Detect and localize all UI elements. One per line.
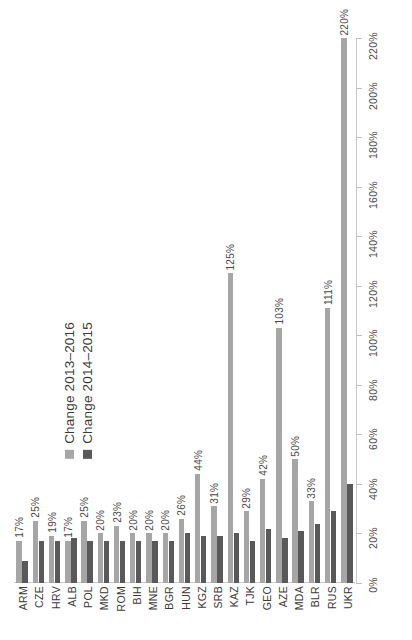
bar-change-2013-2016[interactable]: 26% bbox=[179, 519, 184, 583]
y-tick-mark bbox=[356, 88, 362, 89]
bar-change-2013-2016[interactable]: 23% bbox=[114, 526, 119, 583]
bar-group: 20% bbox=[163, 38, 174, 583]
bar-group: 26% bbox=[179, 38, 190, 583]
x-axis-label-tjk: TJK bbox=[244, 586, 256, 606]
bar-data-label: 111% bbox=[322, 280, 333, 305]
y-tick-label: 20% bbox=[367, 527, 379, 549]
bar-group: 44% bbox=[195, 38, 206, 583]
bar-change-2013-2016[interactable]: 125% bbox=[228, 273, 233, 583]
y-tick-label: 160% bbox=[367, 181, 379, 209]
x-axis-label-hun: HUN bbox=[180, 586, 192, 610]
y-tick-label: 140% bbox=[367, 230, 379, 258]
bar-data-label: 17% bbox=[62, 517, 73, 538]
bar-change-2014-2015[interactable] bbox=[120, 541, 125, 583]
x-axis-label-alb: ALB bbox=[66, 586, 78, 607]
bar-change-2014-2015[interactable] bbox=[169, 541, 174, 583]
bar-change-2013-2016[interactable]: 25% bbox=[33, 521, 38, 583]
bar-group: 25% bbox=[33, 38, 44, 583]
x-axis-label-bih: BIH bbox=[131, 586, 143, 604]
bar-change-2013-2016[interactable]: 19% bbox=[49, 536, 54, 583]
bar-change-2013-2016[interactable]: 111% bbox=[325, 308, 330, 583]
bar-change-2013-2016[interactable]: 31% bbox=[211, 506, 216, 583]
bar-change-2014-2015[interactable] bbox=[185, 533, 190, 583]
x-axis-label-cze: CZE bbox=[33, 586, 45, 608]
bar-change-2013-2016[interactable]: 103% bbox=[276, 328, 281, 583]
x-axis-label-geo: GEO bbox=[261, 586, 273, 610]
bar-data-label: 20% bbox=[144, 510, 155, 531]
x-axis-label-mda: MDA bbox=[293, 586, 305, 610]
bar-change-2014-2015[interactable] bbox=[152, 541, 157, 583]
bar-change-2014-2015[interactable] bbox=[55, 541, 60, 583]
y-tick-label: 200% bbox=[367, 82, 379, 110]
y-tick-label: 100% bbox=[367, 329, 379, 357]
x-axis-label-bgr: BGR bbox=[163, 586, 175, 610]
bar-change-2014-2015[interactable] bbox=[136, 541, 141, 583]
bar-change-2013-2016[interactable]: 42% bbox=[260, 479, 265, 583]
bar-change-2014-2015[interactable] bbox=[298, 531, 303, 583]
bar-data-label: 19% bbox=[46, 512, 57, 533]
bar-change-2013-2016[interactable]: 20% bbox=[146, 533, 151, 583]
bar-change-2014-2015[interactable] bbox=[315, 524, 320, 583]
bar-change-2014-2015[interactable] bbox=[347, 484, 352, 583]
bar-change-2013-2016[interactable]: 50% bbox=[292, 459, 297, 583]
bar-change-2013-2016[interactable]: 44% bbox=[195, 474, 200, 583]
bar-group: 17% bbox=[65, 38, 76, 583]
bar-data-label: 103% bbox=[273, 298, 284, 324]
x-axis-label-rus: RUS bbox=[326, 586, 338, 609]
bar-data-label: 20% bbox=[95, 510, 106, 531]
bar-change-2014-2015[interactable] bbox=[282, 538, 287, 583]
x-axis-label-arm: ARM bbox=[17, 586, 29, 610]
y-tick-mark bbox=[356, 583, 362, 584]
bar-data-label: 50% bbox=[290, 436, 301, 457]
bar-change-2014-2015[interactable] bbox=[234, 533, 239, 583]
y-tick-label: 40% bbox=[367, 478, 379, 500]
bar-change-2013-2016[interactable]: 17% bbox=[65, 541, 70, 583]
bar-change-2014-2015[interactable] bbox=[87, 541, 92, 583]
bar-group: 42% bbox=[260, 38, 271, 583]
bar-change-2014-2015[interactable] bbox=[71, 538, 76, 583]
y-tick-mark bbox=[356, 335, 362, 336]
bar-change-2013-2016[interactable]: 29% bbox=[244, 511, 249, 583]
y-tick-mark bbox=[356, 286, 362, 287]
bar-change-2014-2015[interactable] bbox=[266, 529, 271, 584]
bar-group: 17% bbox=[16, 38, 27, 583]
bar-change-2014-2015[interactable] bbox=[39, 541, 44, 583]
bar-chart: Change 2013–2016 Change 2014–2015 0%20%4… bbox=[0, 0, 412, 640]
bar-group: 19% bbox=[49, 38, 60, 583]
bar-change-2013-2016[interactable]: 20% bbox=[98, 533, 103, 583]
bar-data-label: 125% bbox=[225, 244, 236, 270]
bar-group: 220% bbox=[341, 38, 352, 583]
bar-change-2014-2015[interactable] bbox=[250, 541, 255, 583]
x-axis-label-rom: ROM bbox=[115, 586, 127, 611]
bar-data-label: 31% bbox=[208, 483, 219, 504]
bar-group: 50% bbox=[292, 38, 303, 583]
y-tick-label: 180% bbox=[367, 131, 379, 159]
bar-change-2013-2016[interactable]: 33% bbox=[309, 501, 314, 583]
bar-change-2013-2016[interactable]: 20% bbox=[130, 533, 135, 583]
bar-change-2013-2016[interactable]: 17% bbox=[16, 541, 21, 583]
bar-change-2013-2016[interactable]: 25% bbox=[81, 521, 86, 583]
bar-data-label: 25% bbox=[79, 497, 90, 518]
x-axis-label-pol: POL bbox=[82, 586, 94, 608]
bar-data-label: 26% bbox=[176, 495, 187, 516]
bar-data-label: 17% bbox=[14, 517, 25, 538]
y-tick-mark bbox=[356, 385, 362, 386]
x-axis-label-srb: SRB bbox=[212, 586, 224, 609]
x-axis-label-kgz: KGZ bbox=[196, 586, 208, 609]
x-axis-category-labels: ARMCZEHRVALBPOLMKDROMBIHMNEBGRHUNKGZSRBK… bbox=[14, 586, 355, 640]
bar-group: 25% bbox=[81, 38, 92, 583]
y-tick-mark bbox=[356, 434, 362, 435]
bar-change-2014-2015[interactable] bbox=[104, 541, 109, 583]
bar-group: 125% bbox=[228, 38, 239, 583]
bar-group: 23% bbox=[114, 38, 125, 583]
x-axis-label-hrv: HRV bbox=[50, 586, 62, 609]
bar-change-2014-2015[interactable] bbox=[217, 536, 222, 583]
bar-change-2013-2016[interactable]: 220% bbox=[341, 38, 346, 583]
bar-change-2014-2015[interactable] bbox=[201, 536, 206, 583]
y-tick-mark bbox=[356, 236, 362, 237]
bar-change-2013-2016[interactable]: 20% bbox=[163, 533, 168, 583]
y-tick-label: 0% bbox=[367, 577, 379, 593]
bar-change-2014-2015[interactable] bbox=[22, 561, 27, 583]
bar-data-label: 44% bbox=[192, 450, 203, 471]
bar-change-2014-2015[interactable] bbox=[331, 511, 336, 583]
